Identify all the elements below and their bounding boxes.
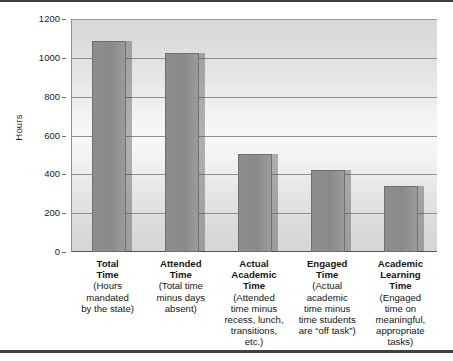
category-subtitle-line: tasks) (364, 336, 437, 347)
category-title-line: Time (217, 280, 290, 291)
y-axis-tick-mark (62, 136, 66, 137)
x-axis-category-label: AcademicLearningTime(Engagedtime onmeani… (364, 258, 437, 348)
category-subtitle-line: (Total time (144, 280, 217, 291)
plot-area (71, 19, 437, 252)
category-subtitle-line: time students (291, 314, 364, 325)
x-axis-category-label: ActualAcademicTime(Attendedtime minusrec… (217, 258, 290, 348)
plot-inner (72, 19, 437, 252)
category-title-line: Total (71, 258, 144, 269)
category-subtitle-line: by the state) (71, 303, 144, 314)
category-title-line: Learning (364, 269, 437, 280)
category-subtitle-line: minus days (144, 292, 217, 303)
category-subtitle-line: (Actual (291, 280, 364, 291)
category-subtitle-line: transitions, (217, 325, 290, 336)
category-subtitle-line: time minus (291, 303, 364, 314)
bar[interactable] (238, 154, 272, 252)
category-subtitle-line: mandated (71, 292, 144, 303)
y-axis-tick-label: 600 (44, 131, 60, 141)
category-subtitle-line: recess, lunch, (217, 314, 290, 325)
x-axis-category-label: AttendedTime(Total timeminus daysabsent) (144, 258, 217, 314)
category-title-line: Actual (217, 258, 290, 269)
category-title-line: Academic (217, 269, 290, 280)
chart-figure: Hours 120010008006004002000 TotalTime(Ho… (0, 2, 453, 350)
y-axis-tick-label: 1000 (39, 53, 60, 63)
category-title-line: Time (364, 280, 437, 291)
x-axis-category-labels: TotalTime(Hoursmandatedby the state)Atte… (71, 258, 437, 350)
y-axis-tick-mark (62, 252, 66, 253)
y-axis-tick-mark (62, 213, 66, 214)
category-subtitle-line: (Engaged (364, 292, 437, 303)
y-axis-tick-mark (62, 97, 66, 98)
y-axis-tick-mark (62, 58, 66, 59)
category-subtitle-line: time on (364, 303, 437, 314)
category-title-line: Time (291, 269, 364, 280)
y-axis-tick-mark (62, 174, 66, 175)
category-title-line: Attended (144, 258, 217, 269)
y-axis-tick-label: 200 (44, 208, 60, 218)
y-axis-tick-label: 0 (55, 247, 60, 257)
category-subtitle-line: are “off task”) (291, 325, 364, 336)
y-axis-tick-mark (62, 19, 66, 20)
category-subtitle-line: appropriate (364, 325, 437, 336)
y-axis-tick-label: 800 (44, 92, 60, 102)
y-axis-tick-label: 400 (44, 169, 60, 179)
category-title-line: Engaged (291, 258, 364, 269)
bar[interactable] (92, 41, 126, 252)
category-title-line: Academic (364, 258, 437, 269)
x-axis-category-label: EngagedTime(Actualacademictime minustime… (291, 258, 364, 336)
y-axis-tick-group: 120010008006004002000 (0, 19, 66, 252)
bottom-divider-rule (0, 350, 453, 353)
y-axis-tick-label: 1200 (39, 14, 60, 24)
category-subtitle-line: absent) (144, 303, 217, 314)
bar[interactable] (165, 53, 199, 252)
gridline (72, 19, 437, 20)
category-subtitle-line: (Attended (217, 292, 290, 303)
category-title-line: Time (144, 269, 217, 280)
bar[interactable] (384, 186, 418, 252)
bar[interactable] (311, 170, 345, 252)
category-subtitle-line: meaningful, (364, 314, 437, 325)
x-axis-category-label: TotalTime(Hoursmandatedby the state) (71, 258, 144, 314)
category-subtitle-line: etc.) (217, 336, 290, 347)
category-title-line: Time (71, 269, 144, 280)
category-subtitle-line: (Hours (71, 280, 144, 291)
category-subtitle-line: time minus (217, 303, 290, 314)
category-subtitle-line: academic (291, 292, 364, 303)
